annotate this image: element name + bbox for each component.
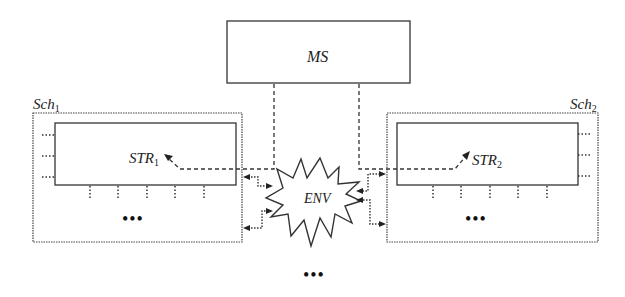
str2-label: STR2 bbox=[472, 153, 502, 170]
env-sch1-connectors bbox=[248, 177, 266, 228]
sch1-ellipsis: ••• bbox=[122, 210, 144, 228]
env-label: ENV bbox=[304, 192, 330, 206]
env-sch2-arrowheads-icon bbox=[356, 171, 386, 227]
sch2-right-stubs bbox=[578, 134, 591, 176]
str1-bottom-stubs bbox=[90, 186, 204, 199]
diagram-svg bbox=[0, 0, 625, 297]
ms-label: MS bbox=[307, 49, 328, 65]
str2-bottom-stubs bbox=[433, 186, 547, 199]
sch1-label: Sch1 bbox=[33, 97, 60, 114]
env-sch2-connectors bbox=[363, 174, 380, 224]
bottom-ellipsis: ••• bbox=[303, 266, 325, 284]
sch2-label: Sch2 bbox=[570, 97, 597, 114]
str1-label: STR1 bbox=[129, 151, 159, 168]
diagram-canvas: MS Sch1 Sch2 STR1 STR2 ENV ••• ••• ••• bbox=[0, 0, 625, 297]
sch1-left-stubs bbox=[42, 135, 55, 177]
sch2-ellipsis: ••• bbox=[465, 210, 487, 228]
